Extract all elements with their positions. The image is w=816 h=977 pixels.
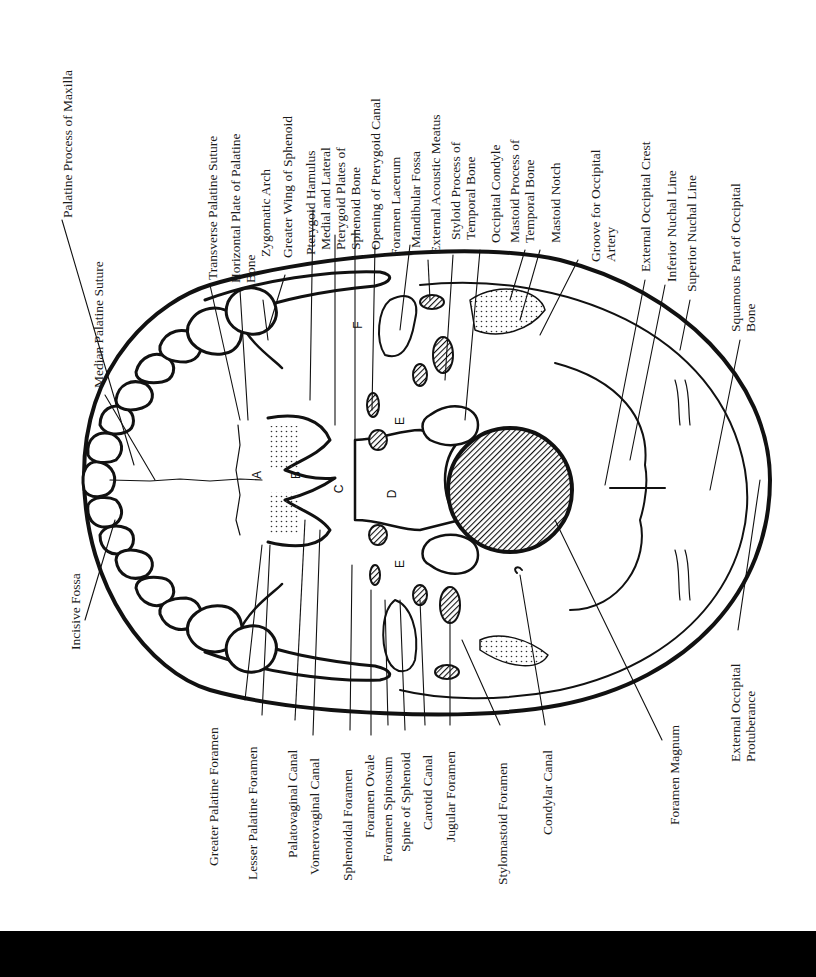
- teeth-lower: [88, 497, 277, 672]
- label-sphenoidal-foramen: Sphenoidal Foramen: [340, 769, 355, 881]
- region-marker-f: F: [351, 321, 365, 328]
- label-styloid-process-of-temporal-bone: Styloid Process of Temporal Bone: [448, 142, 478, 240]
- label-squamous-part-of-occipital-bone: Squamous Part of Occipital Bone: [728, 183, 758, 332]
- label-jugular-foramen: Jugular Foramen: [443, 751, 458, 842]
- median-palatine-suture-line: [110, 479, 262, 481]
- label-external-occipital-crest: External Occipital Crest: [638, 142, 653, 272]
- label-external-acoustic-meatus: External Acoustic Meatus: [428, 115, 443, 254]
- label-horizontal-plate-of-palatine-bone: Horizontal Plate of Palatine Bone: [228, 133, 258, 283]
- label-medial-lateral-pterygoid-plates: Medial and Lateral Pterygoid Plates of S…: [318, 147, 363, 250]
- label-palatovaginal-canal: Palatovaginal Canal: [285, 750, 300, 858]
- label-foramen-magnum: Foramen Magnum: [667, 725, 682, 825]
- label-lesser-palatine-foramen: Lesser Palatine Foramen: [245, 747, 260, 880]
- label-occipital-condyle: Occipital Condyle: [488, 144, 503, 243]
- label-mandibular-fossa: Mandibular Fossa: [408, 151, 423, 248]
- region-marker-d: D: [385, 490, 399, 499]
- label-vomerovaginal-canal: Vomerovaginal Canal: [307, 758, 322, 875]
- region-marker-e-lower: E: [393, 560, 407, 568]
- label-pterygoid-hamulus: Pterygoid Hamulus: [303, 150, 318, 255]
- region-marker-e-upper: E: [393, 417, 407, 425]
- label-median-palatine-suture: Median Palatine Suture: [91, 261, 106, 388]
- label-stylomastoid-foramen: Stylomastoid Foramen: [495, 762, 510, 885]
- label-foramen-spinosum: Foramen Spinosum: [380, 757, 395, 862]
- region-marker-a: A: [250, 471, 264, 479]
- bottom-black-bar: [0, 931, 816, 977]
- label-greater-wing-of-sphenoid: Greater Wing of Sphenoid: [280, 116, 295, 258]
- label-groove-for-occipital-artery: Groove for Occipital Artery: [588, 150, 618, 262]
- label-opening-of-pterygoid-canal: Opening of Pterygoid Canal: [368, 98, 383, 250]
- label-incisive-fossa: Incisive Fossa: [68, 573, 83, 650]
- label-transverse-palatine-suture: Transverse Palatine Suture: [205, 136, 220, 280]
- region-marker-b: B: [289, 471, 303, 479]
- label-external-occipital-protuberance: External Occipital Protuberance: [728, 663, 758, 762]
- label-carotid-canal: Carotid Canal: [420, 755, 435, 830]
- label-superior-nuchal-line: Superior Nuchal Line: [684, 175, 699, 292]
- label-zygomatic-arch: Zygomatic Arch: [258, 169, 273, 257]
- label-greater-palatine-foramen: Greater Palatine Foramen: [206, 727, 221, 866]
- label-spine-of-sphenoid: Spine of Sphenoid: [398, 752, 413, 852]
- skull-base-diagram: A B C D E E F Palatine Process of Maxill…: [0, 0, 816, 977]
- label-palatine-process-of-maxilla: Palatine Process of Maxilla: [60, 70, 75, 218]
- label-condylar-canal: Condylar Canal: [540, 750, 555, 835]
- teeth-upper: [83, 288, 276, 497]
- label-foramen-lacerum: Foramen Lacerum: [388, 157, 403, 256]
- label-foramen-ovale: Foramen Ovale: [362, 754, 377, 838]
- foramen-magnum-shape: [448, 428, 572, 552]
- region-marker-c: C: [332, 485, 346, 494]
- label-mastoid-process-of-temporal-bone: Mastoid Process of Temporal Bone: [507, 140, 537, 244]
- label-mastoid-notch: Mastoid Notch: [548, 162, 563, 243]
- label-inferior-nuchal-line: Inferior Nuchal Line: [664, 170, 679, 282]
